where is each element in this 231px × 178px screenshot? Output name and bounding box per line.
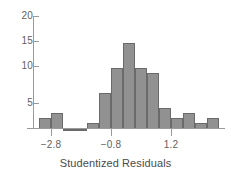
histogram-bar <box>123 43 135 129</box>
plot-area: 20 15 10 5 −2.8 − <box>0 0 231 178</box>
x-tick-label-1-2: 1.2 <box>151 139 191 150</box>
histogram-bar <box>147 73 159 129</box>
y-tick-label-20: 20 <box>7 11 33 21</box>
histogram-chart: 20 15 10 5 −2.8 − <box>0 0 231 178</box>
y-tick-20: 20 <box>0 11 33 21</box>
histogram-bar <box>183 113 195 129</box>
y-tick-5: 5 <box>0 98 33 108</box>
histogram-bar <box>135 68 147 129</box>
x-tick-label-neg2-8: −2.8 <box>31 139 71 150</box>
histogram-bar <box>75 129 87 131</box>
y-tick-label-5: 5 <box>7 98 33 108</box>
y-tick-mark-5 <box>33 103 39 104</box>
histogram-bar <box>111 68 123 129</box>
histogram-bar <box>99 93 111 129</box>
y-tick-mark-10 <box>33 66 39 67</box>
x-tick-mark-neg0-8 <box>111 129 112 136</box>
histogram-bar <box>63 129 75 131</box>
x-tick-mark-1-2 <box>171 129 172 136</box>
y-tick-15: 15 <box>0 36 33 46</box>
y-tick-label-10: 10 <box>7 61 33 71</box>
y-tick-label-15: 15 <box>7 36 33 46</box>
y-axis-line <box>33 16 34 129</box>
x-axis-title: Studentized Residuals <box>0 157 231 169</box>
y-tick-10: 10 <box>0 61 33 71</box>
x-axis-line <box>27 128 225 129</box>
y-tick-mark-15 <box>33 41 39 42</box>
x-tick-mark-neg2-8 <box>51 129 52 136</box>
y-tick-mark-20 <box>33 16 39 17</box>
histogram-bar <box>51 113 63 129</box>
x-tick-label-neg0-8: −0.8 <box>91 139 131 150</box>
histogram-bar <box>159 108 171 129</box>
